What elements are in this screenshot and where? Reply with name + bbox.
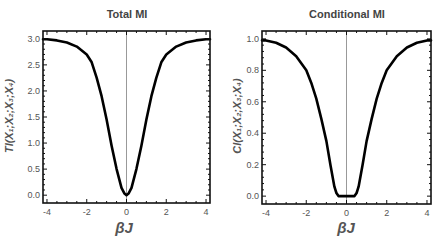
y-tick-label: 0.6 [246, 97, 259, 107]
x-axis-label: βJ [326, 219, 366, 236]
y-tick-label: 2.5 [27, 60, 40, 70]
y-tick-label: 0.5 [27, 164, 40, 174]
x-tick-label: -4 [262, 208, 270, 218]
x-tick-label: 2 [384, 208, 389, 218]
conditional-mi-plot: -4-20240.00.20.40.60.81.0 [224, 0, 448, 247]
y-tick-label: 0.0 [246, 191, 259, 201]
total-mi-panel: Total MI -4-20240.00.51.01.52.02.53.0 TI… [0, 0, 224, 247]
x-tick-label: 0 [124, 207, 129, 217]
x-tick-label: -2 [83, 207, 91, 217]
y-tick-label: 1.0 [27, 138, 40, 148]
y-tick-label: 0.0 [27, 190, 40, 200]
y-axis-label: TI(X₁;X₂;X₃;X₄) [3, 51, 15, 181]
y-axis-label: CI(X₁;X₂;X₃;X₄) [231, 51, 243, 181]
y-tick-label: 1.0 [246, 34, 259, 44]
y-tick-label: 2.0 [27, 86, 40, 96]
total-mi-plot: -4-20240.00.51.01.52.02.53.0 [0, 0, 224, 247]
x-tick-label: 0 [344, 208, 349, 218]
x-tick-label: 4 [424, 208, 429, 218]
x-tick-label: -2 [302, 208, 310, 218]
y-tick-label: 0.2 [246, 160, 259, 170]
y-tick-label: 0.8 [246, 65, 259, 75]
y-tick-label: 1.5 [27, 112, 40, 122]
x-axis-label: βJ [104, 219, 144, 236]
x-tick-label: 2 [164, 207, 169, 217]
x-tick-label: 4 [204, 207, 209, 217]
conditional-mi-panel: Conditional MI -4-20240.00.20.40.60.81.0… [224, 0, 448, 247]
y-tick-label: 3.0 [27, 34, 40, 44]
x-tick-label: -4 [43, 207, 51, 217]
y-tick-label: 0.4 [246, 128, 259, 138]
